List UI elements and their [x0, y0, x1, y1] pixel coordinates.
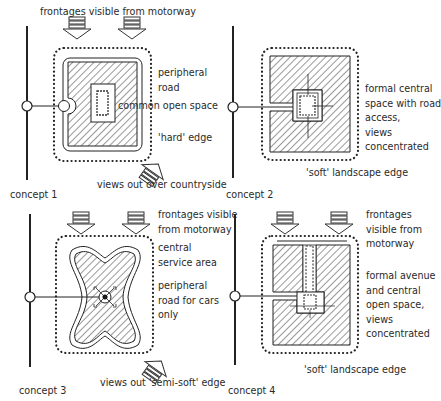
- frontage-arrow-icon: [67, 212, 95, 234]
- junction-icon: [22, 101, 32, 111]
- c1-open-space-label: common open space: [118, 99, 218, 114]
- c3-views-label: views out 'semi-soft' edge: [100, 376, 225, 391]
- c4-frontages-label: frontages visible from motorway: [366, 208, 422, 252]
- c3-service-area-label: central service area: [158, 241, 217, 270]
- frontage-arrow-icon: [118, 17, 146, 39]
- junction-icon: [230, 291, 240, 301]
- c4-edge-label: 'soft' landscape edge: [304, 363, 406, 378]
- concept-3-caption: concept 3: [19, 384, 66, 399]
- c1-peripheral-road-label: peripheral road: [158, 66, 207, 95]
- c3-frontages-label: frontages visible from motorway: [158, 208, 237, 237]
- c1-edge-label: 'hard' edge: [158, 131, 212, 146]
- junction-icon: [25, 292, 35, 302]
- frontage-arrow-icon: [271, 212, 299, 234]
- c2-central-space-label: formal central space with road access, v…: [365, 82, 441, 155]
- junction-icon: [228, 102, 238, 112]
- c4-avenue-label: formal avenue and central open space, vi…: [366, 269, 435, 342]
- frontage-arrow-icon: [63, 17, 91, 39]
- concept-2-diagram: [228, 26, 358, 178]
- concept-4-diagram: [230, 212, 358, 365]
- frontage-arrow-icon: [122, 212, 150, 234]
- c3-peripheral-road-label: peripheral road for cars only: [158, 279, 219, 323]
- formal-avenue: [303, 245, 316, 293]
- concept-2-caption: concept 2: [226, 188, 273, 203]
- common-open-space: [91, 84, 115, 122]
- c1-frontages-label: frontages visible from motorway: [40, 5, 196, 20]
- frontage-arrow-icon: [325, 212, 353, 234]
- concept-3-diagram: [25, 212, 172, 386]
- c1-views-label: views out over countryside: [97, 178, 227, 193]
- c2-edge-label: 'soft' landscape edge: [306, 166, 408, 181]
- concept-4-caption: concept 4: [228, 384, 275, 399]
- concept-1-caption: concept 1: [10, 188, 57, 203]
